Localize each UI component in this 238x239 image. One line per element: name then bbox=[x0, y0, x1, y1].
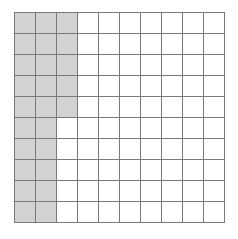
grid-cell-empty bbox=[120, 139, 141, 160]
grid-cell-empty bbox=[78, 76, 99, 97]
grid-cell-empty bbox=[183, 97, 204, 118]
grid-cell-shaded bbox=[15, 55, 36, 76]
grid-cell-empty bbox=[120, 55, 141, 76]
grid-cell-shaded bbox=[36, 97, 57, 118]
grid-cell-empty bbox=[141, 181, 162, 202]
grid-cell-empty bbox=[204, 202, 225, 223]
grid-cell-empty bbox=[99, 160, 120, 181]
grid-cell-empty bbox=[162, 13, 183, 34]
grid-cell-empty bbox=[162, 34, 183, 55]
grid-cell-empty bbox=[183, 55, 204, 76]
grid-cell-shaded bbox=[15, 202, 36, 223]
grid-cell-shaded bbox=[57, 13, 78, 34]
grid-cell-empty bbox=[78, 160, 99, 181]
grid-cell-shaded bbox=[36, 55, 57, 76]
grid-cell-empty bbox=[99, 55, 120, 76]
grid-cell-empty bbox=[120, 34, 141, 55]
grid-cell-empty bbox=[141, 139, 162, 160]
grid-cell-empty bbox=[78, 13, 99, 34]
grid-cell-empty bbox=[99, 139, 120, 160]
grid-cell-empty bbox=[141, 118, 162, 139]
grid-cell-empty bbox=[99, 97, 120, 118]
grid-cell-empty bbox=[183, 34, 204, 55]
grid-cell-empty bbox=[162, 97, 183, 118]
grid-cell-empty bbox=[162, 55, 183, 76]
grid-cell-empty bbox=[141, 34, 162, 55]
grid-cell-shaded bbox=[15, 160, 36, 181]
grid-cell-shaded bbox=[15, 97, 36, 118]
grid-cell-shaded bbox=[36, 34, 57, 55]
grid-cell-empty bbox=[120, 97, 141, 118]
grid-cell-empty bbox=[99, 76, 120, 97]
grid-cell-empty bbox=[78, 139, 99, 160]
grid-cell-empty bbox=[57, 181, 78, 202]
grid-cell-empty bbox=[141, 97, 162, 118]
grid-cell-empty bbox=[99, 202, 120, 223]
grid-cell-shaded bbox=[15, 139, 36, 160]
grid-cell-empty bbox=[204, 160, 225, 181]
grid-cell-shaded bbox=[57, 76, 78, 97]
grid-cell-empty bbox=[120, 202, 141, 223]
grid-cell-empty bbox=[141, 202, 162, 223]
grid-cell-shaded bbox=[36, 160, 57, 181]
grid-cell-empty bbox=[141, 76, 162, 97]
grid-cell-empty bbox=[57, 160, 78, 181]
grid-cell-empty bbox=[57, 139, 78, 160]
grid-cell-empty bbox=[204, 34, 225, 55]
grid-cell-shaded bbox=[15, 76, 36, 97]
grid-cell-empty bbox=[162, 160, 183, 181]
grid-cell-empty bbox=[162, 181, 183, 202]
grid-cell-empty bbox=[120, 181, 141, 202]
grid-cell-empty bbox=[183, 139, 204, 160]
grid-cell-empty bbox=[57, 118, 78, 139]
grid-cell-empty bbox=[99, 118, 120, 139]
grid-cell-empty bbox=[162, 76, 183, 97]
grid-cell-shaded bbox=[15, 181, 36, 202]
grid-cell-empty bbox=[78, 202, 99, 223]
grid-cell-empty bbox=[204, 13, 225, 34]
grid-cell-empty bbox=[120, 76, 141, 97]
grid-cell-empty bbox=[204, 118, 225, 139]
grid-cell-shaded bbox=[36, 139, 57, 160]
grid-cell-empty bbox=[120, 118, 141, 139]
grid-cell-shaded bbox=[36, 202, 57, 223]
grid-cell-empty bbox=[162, 118, 183, 139]
grid-cell-empty bbox=[78, 181, 99, 202]
grid-cell-empty bbox=[162, 139, 183, 160]
grid-cell-shaded bbox=[57, 97, 78, 118]
grid-cell-empty bbox=[183, 118, 204, 139]
grid-cell-empty bbox=[78, 55, 99, 76]
grid-cell-empty bbox=[141, 13, 162, 34]
grid-cell-empty bbox=[99, 13, 120, 34]
grid-cell-empty bbox=[204, 139, 225, 160]
grid-cell-empty bbox=[78, 97, 99, 118]
grid-cell-shaded bbox=[57, 55, 78, 76]
grid-cell-empty bbox=[183, 160, 204, 181]
grid-cell-shaded bbox=[15, 118, 36, 139]
grid-cell-empty bbox=[78, 34, 99, 55]
grid-cell-empty bbox=[57, 202, 78, 223]
grid-cell-shaded bbox=[36, 118, 57, 139]
grid-cell-empty bbox=[99, 181, 120, 202]
grid-cell-empty bbox=[141, 55, 162, 76]
grid-cell-empty bbox=[120, 160, 141, 181]
grid-cell-shaded bbox=[36, 76, 57, 97]
grid-cell-empty bbox=[78, 118, 99, 139]
grid-container bbox=[14, 12, 225, 223]
grid-cell-shaded bbox=[57, 34, 78, 55]
grid-cell-empty bbox=[183, 76, 204, 97]
grid-cell-empty bbox=[204, 55, 225, 76]
grid-cell-empty bbox=[162, 202, 183, 223]
grid-cell-empty bbox=[183, 181, 204, 202]
grid-cell-shaded bbox=[15, 34, 36, 55]
grid-cell-empty bbox=[204, 76, 225, 97]
grid-cell-shaded bbox=[15, 13, 36, 34]
grid-cell-empty bbox=[204, 181, 225, 202]
grid-cell-empty bbox=[204, 97, 225, 118]
grid-cell-empty bbox=[183, 13, 204, 34]
grid-cell-empty bbox=[141, 160, 162, 181]
grid-cell-empty bbox=[183, 202, 204, 223]
grid-cell-empty bbox=[120, 13, 141, 34]
grid-cell-empty bbox=[99, 34, 120, 55]
grid-cell-shaded bbox=[36, 181, 57, 202]
